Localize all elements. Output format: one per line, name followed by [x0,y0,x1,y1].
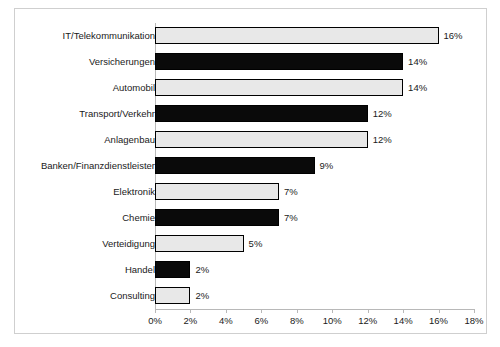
bar [155,53,403,70]
bar-track: 5% [155,231,488,257]
x-axis-tick [439,309,440,313]
x-axis-tick-label: 0% [148,315,162,326]
bar [155,27,439,44]
x-axis-tick [226,309,227,313]
bar-track: 12% [155,127,488,153]
category-label: Consulting [110,283,155,309]
category-label: Elektronik [113,179,155,205]
bar-row: Automobil14% [15,75,488,101]
bar-row: Consulting2% [15,283,488,309]
bar-track: 9% [155,153,488,179]
bar [155,209,279,226]
category-label: Banken/Finanzdienstleister [41,153,155,179]
category-label: Handel [125,257,155,283]
x-axis-tick [155,309,156,313]
bar-track: 7% [155,179,488,205]
bar-value-label: 12% [373,105,392,122]
x-axis-tick [474,309,475,313]
x-axis-tick-label: 14% [394,315,413,326]
x-axis-tick [368,309,369,313]
x-axis-tick [190,309,191,313]
x-axis-line [155,309,474,310]
bar-track: 12% [155,101,488,127]
bar-value-label: 9% [320,157,334,174]
bar-row: IT/Telekommunikation16% [15,23,488,49]
category-label: Versicherungen [89,49,155,75]
bar [155,183,279,200]
category-label: IT/Telekommunikation [63,23,155,49]
category-label: Chemie [122,205,155,231]
bar-value-label: 16% [444,27,463,44]
bar-track: 14% [155,49,488,75]
category-label: Anlagenbau [104,127,155,153]
bar-row: Handel2% [15,257,488,283]
bar-track: 14% [155,75,488,101]
bar [155,287,190,304]
bar [155,79,403,96]
chart-frame: IT/Telekommunikation16%Versicherungen14%… [14,8,487,334]
x-axis-tick-label: 8% [290,315,304,326]
bar [155,157,315,174]
x-axis-tick [332,309,333,313]
bar-value-label: 7% [284,209,298,226]
bar-track: 2% [155,283,488,309]
x-axis-tick [261,309,262,313]
category-label: Verteidigung [102,231,155,257]
x-axis-tick [297,309,298,313]
bar [155,131,368,148]
bar [155,105,368,122]
bar-chart-plot-area: IT/Telekommunikation16%Versicherungen14%… [15,9,488,335]
bar-row: Anlagenbau12% [15,127,488,153]
bar-row: Elektronik7% [15,179,488,205]
x-axis-tick-label: 18% [464,315,483,326]
category-label: Transport/Verkehr [79,101,155,127]
bar-track: 2% [155,257,488,283]
x-axis-tick-label: 16% [429,315,448,326]
x-axis-tick-label: 6% [254,315,268,326]
bar-value-label: 14% [408,79,427,96]
bar-row: Transport/Verkehr12% [15,101,488,127]
bar [155,235,244,252]
bar-value-label: 12% [373,131,392,148]
bar-value-label: 5% [249,235,263,252]
bar-row: Versicherungen14% [15,49,488,75]
bar-value-label: 2% [195,261,209,278]
bar-value-label: 7% [284,183,298,200]
bar-row: Chemie7% [15,205,488,231]
bar-value-label: 2% [195,287,209,304]
bar-row: Verteidigung5% [15,231,488,257]
category-label: Automobil [113,75,155,101]
x-axis-tick-label: 4% [219,315,233,326]
bar-track: 7% [155,205,488,231]
bar-row: Banken/Finanzdienstleister9% [15,153,488,179]
bar-value-label: 14% [408,53,427,70]
bar-track: 16% [155,23,488,49]
bar [155,261,190,278]
x-axis-tick [403,309,404,313]
x-axis-tick-label: 10% [323,315,342,326]
x-axis-tick-label: 12% [358,315,377,326]
x-axis-tick-label: 2% [184,315,198,326]
